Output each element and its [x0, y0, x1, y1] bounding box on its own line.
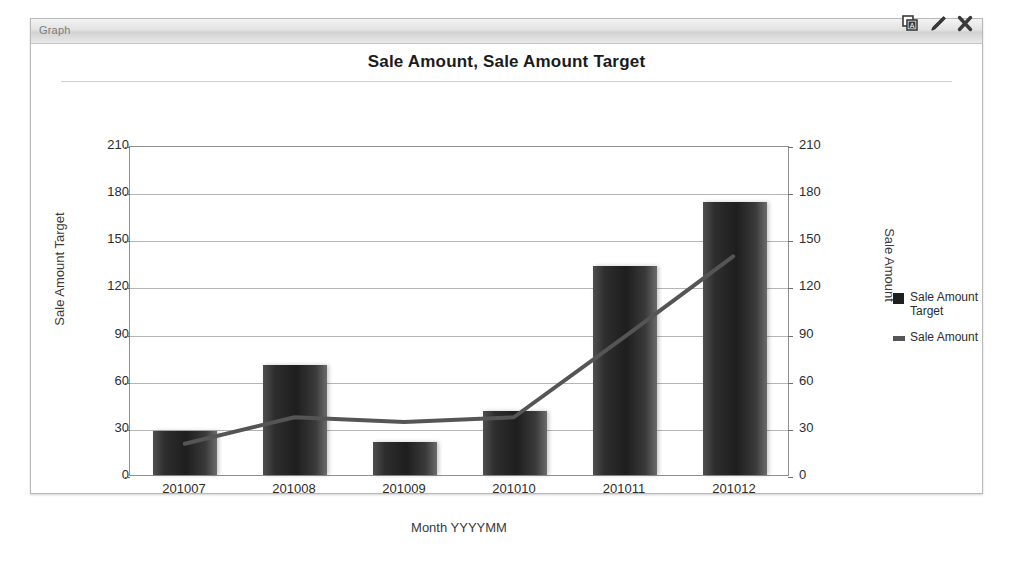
- y-axis-right-tick-label: 210: [799, 137, 839, 152]
- close-icon[interactable]: [954, 12, 976, 35]
- tick-mark: [125, 430, 130, 431]
- tick-mark: [788, 430, 793, 431]
- y-axis-left-tick-label: 90: [89, 326, 129, 341]
- tick-mark: [125, 336, 130, 337]
- window-titlebar-actions: A: [900, 12, 976, 35]
- y-axis-right-tick-label: 150: [799, 231, 839, 246]
- window-title: Graph: [39, 24, 71, 36]
- legend-label: Sale Amount Target: [910, 290, 979, 318]
- tick-mark: [788, 477, 793, 478]
- gridline: [130, 194, 788, 195]
- legend-item[interactable]: Sale Amount: [893, 330, 979, 344]
- bar[interactable]: [373, 442, 437, 475]
- plot-wrapper: Sale Amount Target Sale Amount Month YYY…: [31, 44, 982, 494]
- gridline: [130, 430, 788, 431]
- y-axis-right-tick-label: 0: [799, 467, 839, 482]
- gridline: [130, 288, 788, 289]
- bar[interactable]: [263, 365, 327, 475]
- legend-label: Sale Amount: [910, 330, 978, 344]
- bar[interactable]: [153, 431, 217, 475]
- bar[interactable]: [593, 266, 657, 475]
- chart-area: Sale Amount, Sale Amount Target Sale Amo…: [31, 44, 982, 494]
- bar[interactable]: [483, 411, 547, 475]
- bar[interactable]: [703, 202, 767, 475]
- y-axis-left-tick-label: 30: [89, 420, 129, 435]
- y-axis-left-tick-label: 150: [89, 231, 129, 246]
- window-titlebar: Graph A: [31, 19, 982, 44]
- tick-mark: [125, 383, 130, 384]
- x-axis-tick-label: 201010: [469, 481, 559, 496]
- y-axis-right-ticks: 0306090120150180210: [799, 44, 839, 494]
- tick-mark: [125, 147, 130, 148]
- y-axis-right-tick-label: 90: [799, 326, 839, 341]
- x-axis-tick-label: 201007: [139, 481, 229, 496]
- y-axis-left-tick-label: 0: [89, 467, 129, 482]
- legend-bar-swatch-icon: [893, 293, 904, 304]
- y-axis-left-ticks: 0306090120150180210: [89, 44, 129, 494]
- y-axis-right-tick-label: 60: [799, 373, 839, 388]
- tick-mark: [125, 241, 130, 242]
- tick-mark: [125, 477, 130, 478]
- x-axis-tick-label: 201011: [579, 481, 669, 496]
- gridline: [130, 241, 788, 242]
- gridline: [130, 336, 788, 337]
- legend-item[interactable]: Sale Amount Target: [893, 290, 979, 318]
- y-axis-right-tick-label: 180: [799, 184, 839, 199]
- y-axis-left-tick-label: 210: [89, 137, 129, 152]
- line-series-sale-amount: [130, 147, 788, 475]
- tick-mark: [788, 241, 793, 242]
- tick-mark: [125, 288, 130, 289]
- copy-annotate-icon[interactable]: A: [900, 12, 922, 35]
- x-axis-tick-label: 201008: [249, 481, 339, 496]
- y-axis-right-tick-label: 120: [799, 278, 839, 293]
- chart-legend: Sale Amount TargetSale Amount: [893, 290, 979, 356]
- y-axis-left-title: Sale Amount Target: [52, 179, 67, 359]
- y-axis-right-tick-label: 30: [799, 420, 839, 435]
- y-axis-left-tick-label: 60: [89, 373, 129, 388]
- y-axis-left-tick-label: 180: [89, 184, 129, 199]
- tick-mark: [125, 194, 130, 195]
- y-axis-left-tick-label: 120: [89, 278, 129, 293]
- tick-mark: [788, 147, 793, 148]
- plot-area: [129, 146, 789, 476]
- x-axis-tick-label: 201012: [689, 481, 779, 496]
- tick-mark: [788, 336, 793, 337]
- tick-mark: [788, 194, 793, 195]
- svg-text:A: A: [910, 22, 915, 29]
- tick-mark: [788, 288, 793, 289]
- x-axis-title: Month YYYYMM: [129, 520, 789, 535]
- edit-pencil-icon[interactable]: [927, 12, 949, 35]
- gridline: [130, 383, 788, 384]
- legend-line-swatch-icon: [893, 336, 905, 341]
- tick-mark: [788, 383, 793, 384]
- x-axis-tick-label: 201009: [359, 481, 449, 496]
- graph-window: Graph A: [30, 18, 983, 494]
